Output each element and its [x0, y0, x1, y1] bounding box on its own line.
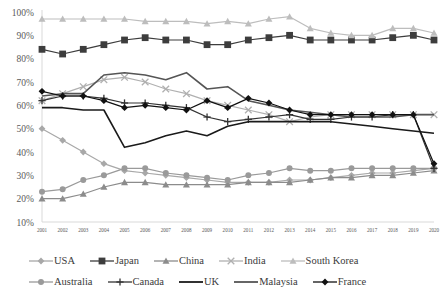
legend-item-australia[interactable]: Australia — [28, 276, 93, 288]
y-tick-label: 10% — [17, 218, 35, 228]
x-tick-label: 2003 — [78, 227, 89, 233]
data-point — [327, 37, 334, 44]
data-point — [390, 165, 396, 171]
data-point — [39, 46, 46, 53]
legend-marker-diamond-icon — [312, 276, 338, 288]
chart-legend: USAJapanChinaIndiaSouth Korea AustraliaC… — [0, 248, 440, 299]
data-point — [431, 37, 438, 44]
x-tick-label: 2016 — [346, 227, 357, 233]
series-south-korea — [39, 13, 438, 38]
data-point — [80, 177, 86, 183]
y-tick-label: 40% — [17, 148, 35, 158]
legend-item-india[interactable]: India — [218, 255, 266, 267]
y-tick-label: 50% — [17, 124, 35, 134]
x-tick-label: 2018 — [388, 227, 399, 233]
x-tick-label: 2019 — [408, 227, 419, 233]
x-tick-label: 2015 — [326, 227, 337, 233]
legend-label: France — [338, 276, 367, 288]
legend-row-1: USAJapanChinaIndiaSouth Korea — [0, 250, 440, 271]
y-tick-label: 80% — [17, 54, 35, 64]
data-point — [389, 34, 396, 41]
series-japan — [39, 32, 438, 57]
legend-item-canada[interactable]: Canada — [107, 276, 165, 288]
data-point — [59, 51, 66, 58]
y-tick-label: 70% — [17, 78, 35, 88]
data-point — [39, 189, 45, 195]
legend-row-2: AustraliaCanadaUKMalaysiaFrance — [0, 271, 440, 292]
data-point — [80, 83, 87, 90]
legend-label: Canada — [133, 276, 165, 288]
x-tick-label: 2014 — [305, 227, 316, 233]
x-tick-label: 2017 — [367, 227, 378, 233]
data-point — [80, 149, 87, 156]
series-uk — [42, 108, 434, 148]
legend-point — [116, 278, 123, 285]
legend-marker-plus-icon — [107, 276, 133, 288]
legend-marker-triangle-icon — [153, 255, 179, 267]
legend-label: India — [244, 255, 266, 267]
data-point — [245, 172, 251, 178]
data-point — [369, 165, 375, 171]
x-tick-label: 2004 — [99, 227, 110, 233]
y-tick-label: 100% — [12, 8, 34, 18]
legend-label: China — [179, 255, 204, 267]
legend-marker-triangle-icon — [280, 255, 306, 267]
series-line — [42, 17, 434, 36]
x-tick-label: 2002 — [58, 227, 69, 233]
x-tick-label: 2013 — [284, 227, 295, 233]
series-line — [42, 108, 434, 148]
data-point — [163, 170, 169, 176]
plot-area: 10%20%30%40%50%60%70%80%90%100% 20012002… — [0, 0, 440, 247]
data-point — [162, 37, 169, 44]
legend-item-usa[interactable]: USA — [28, 255, 75, 267]
data-point — [183, 172, 189, 178]
series-line — [42, 91, 434, 163]
data-point — [122, 165, 128, 171]
x-tick-label: 2007 — [161, 227, 172, 233]
legend-point — [99, 257, 106, 264]
chart-canvas: 10%20%30%40%50%60%70%80%90%100% 20012002… — [0, 0, 440, 247]
data-point — [410, 32, 417, 39]
data-point — [266, 34, 273, 41]
series-line — [42, 96, 434, 168]
series-china — [39, 167, 438, 201]
data-point — [100, 160, 107, 167]
data-point — [287, 165, 293, 171]
data-point — [286, 32, 293, 39]
legend-label: South Korea — [306, 255, 359, 267]
legend-marker-circle-icon — [28, 276, 54, 288]
legend-item-china[interactable]: China — [153, 255, 204, 267]
data-point — [183, 37, 190, 44]
data-point — [307, 37, 314, 44]
y-tick-label: 30% — [17, 171, 35, 181]
data-point — [307, 25, 314, 31]
data-point — [203, 113, 210, 120]
series-line — [42, 129, 434, 183]
x-tick-label: 2010 — [223, 227, 234, 233]
series-layer — [38, 13, 437, 201]
legend-label: USA — [54, 255, 75, 267]
legend-label: UK — [204, 276, 219, 288]
legend-marker-none-icon — [178, 276, 204, 288]
legend-item-japan[interactable]: Japan — [89, 255, 139, 267]
legend-item-south-korea[interactable]: South Korea — [280, 255, 359, 267]
legend-item-uk[interactable]: UK — [178, 276, 219, 288]
data-point — [286, 107, 293, 114]
legend-label: Australia — [54, 276, 93, 288]
legend-point — [321, 278, 328, 285]
data-point — [59, 137, 66, 144]
data-point — [101, 172, 107, 178]
data-point — [121, 37, 128, 44]
data-point — [286, 13, 293, 19]
data-point — [60, 186, 66, 192]
legend-item-malaysia[interactable]: Malaysia — [233, 276, 298, 288]
y-tick-label: 60% — [17, 101, 35, 111]
data-point — [266, 170, 272, 176]
x-tick-label: 2008 — [181, 227, 192, 233]
legend-item-france[interactable]: France — [312, 276, 367, 288]
data-point — [142, 165, 148, 171]
legend-marker-none-icon — [233, 276, 259, 288]
data-point — [100, 41, 107, 48]
x-tick-label: 2006 — [140, 227, 151, 233]
data-point — [224, 18, 231, 24]
